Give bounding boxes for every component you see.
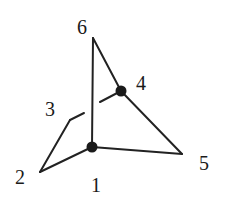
edge-3-4-left-segment bbox=[70, 113, 84, 120]
node-label-5: 5 bbox=[199, 152, 209, 174]
node-label-4: 4 bbox=[136, 72, 146, 94]
node-label-1: 1 bbox=[91, 174, 101, 196]
node-label-2: 2 bbox=[15, 166, 25, 188]
vertex-dot-1 bbox=[87, 142, 98, 153]
edge-5-1 bbox=[92, 147, 182, 154]
edge-4-5 bbox=[121, 91, 182, 154]
node-label-3: 3 bbox=[45, 98, 55, 120]
edge-6-4 bbox=[93, 38, 121, 91]
node-label-6: 6 bbox=[77, 16, 87, 38]
edge-6-1 bbox=[92, 38, 93, 147]
knot-diagram: 6 4 3 2 1 5 bbox=[0, 0, 233, 199]
vertex-dot-4 bbox=[116, 86, 127, 97]
